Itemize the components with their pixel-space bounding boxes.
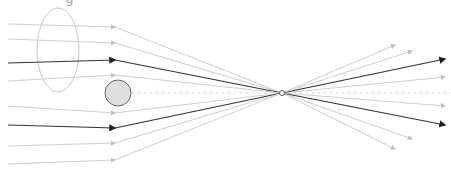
incoming-ray-segment: [8, 39, 115, 43]
diverging-ray-segment: [282, 59, 445, 93]
diverging-ray-segment: [282, 93, 395, 149]
converging-ray-segment: [115, 75, 282, 93]
diverging-ray-segment: [282, 93, 412, 139]
incoming-ray-segment: [8, 160, 115, 164]
rays: [8, 24, 445, 164]
diverging-ray-segment: [282, 45, 395, 93]
ray-diagram: [0, 0, 451, 175]
incoming-ray-segment: [8, 24, 115, 27]
incoming-ray-segment: [8, 106, 115, 113]
ray-1: [8, 24, 395, 149]
focal-point: [280, 91, 285, 96]
ray-4: [8, 75, 445, 106]
converging-ray-segment: [115, 27, 282, 93]
converging-ray-segment: [115, 93, 282, 128]
incoming-ray-segment: [8, 125, 115, 128]
diverging-ray-segment: [282, 93, 445, 106]
converging-ray-segment: [115, 60, 282, 93]
ray-8: [8, 45, 395, 164]
converging-ray-segment: [115, 43, 282, 93]
converging-ray-segment: [115, 93, 282, 143]
incoming-ray-segment: [8, 60, 115, 63]
obstacle-circle: [105, 80, 131, 106]
diverging-ray-segment: [282, 93, 445, 125]
focal-point-marker: [280, 91, 285, 96]
incoming-ray-segment: [8, 75, 115, 81]
ray-2: [8, 39, 412, 139]
obstacle-circle-shape: [105, 80, 131, 106]
incoming-ray-segment: [8, 143, 115, 146]
